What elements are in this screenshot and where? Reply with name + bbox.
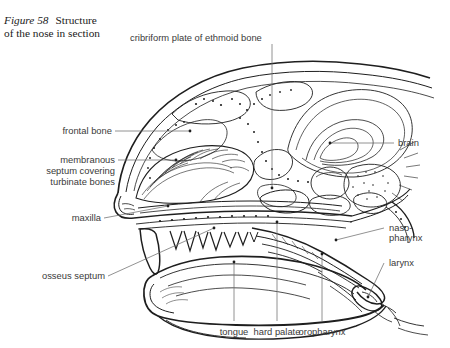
label-brain: brain: [398, 138, 419, 149]
leader-brain: [329, 142, 394, 145]
leader-nasopharynx: [335, 228, 384, 241]
oropharynx: [318, 272, 400, 326]
leader-oropharynx: [321, 253, 324, 321]
label-cribriform-plate: cribriform plate of ethmoid bone: [130, 33, 262, 44]
neck-contours: [394, 318, 428, 335]
brain-midbrain: [311, 167, 349, 199]
turbinate-bones: [136, 146, 254, 204]
leader-osseus-septum: [108, 227, 215, 276]
tongue: [152, 256, 366, 299]
label-membranous-septum-line2: septum covering: [0, 166, 115, 177]
figure-canvas: Figure 58 Structure of the nose in secti…: [0, 0, 450, 348]
label-nasopharynx-line2: pharynx: [389, 233, 422, 244]
leader-hard-palate: [276, 221, 279, 321]
label-frontal-bone: frontal bone: [0, 126, 112, 137]
label-larynx: larynx: [389, 258, 414, 269]
label-oropharynx: oropharynx: [289, 327, 355, 338]
upper-teeth: [140, 229, 258, 274]
label-maxilla: maxilla: [0, 213, 101, 224]
label-membranous-septum-line3: turbinate bones: [0, 177, 115, 188]
leader-cribriform: [271, 44, 274, 189]
leader-tongue: [233, 261, 236, 321]
label-osseus-septum: osseus septum: [0, 271, 105, 282]
label-membranous-septum-line1: membranous: [0, 155, 115, 166]
brain-cerebellum: [344, 142, 420, 207]
